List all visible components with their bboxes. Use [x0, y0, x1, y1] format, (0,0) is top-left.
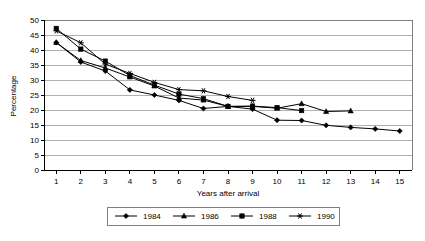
y-tick-label: 40: [30, 46, 39, 55]
data-point-square: [299, 108, 303, 112]
data-point-square: [250, 104, 254, 108]
data-point-square: [79, 47, 83, 51]
x-tick-label: 11: [297, 177, 306, 186]
data-point-square: [201, 96, 205, 100]
line-chart: 05101520253035404550 1234567891011121314…: [0, 0, 425, 241]
legend-label: 1990: [317, 212, 335, 221]
data-point-square: [226, 104, 230, 108]
chart-legend: 1984198619881990: [107, 207, 339, 225]
chart-container: 05101520253035404550 1234567891011121314…: [0, 0, 425, 241]
data-point-square: [152, 83, 156, 87]
x-tick-label: 4: [128, 177, 133, 186]
x-tick-label: 5: [152, 177, 157, 186]
x-tick-label: 3: [103, 177, 108, 186]
x-tick-label: 7: [201, 177, 206, 186]
y-tick-label: 10: [30, 136, 39, 145]
legend-label: 1986: [201, 212, 219, 221]
x-tick-label: 15: [395, 177, 404, 186]
y-tick-label: 25: [30, 91, 39, 100]
x-tick-label: 6: [177, 177, 182, 186]
y-axis-title: Percentage: [9, 75, 18, 116]
legend-label: 1988: [259, 212, 277, 221]
data-point-square: [177, 92, 181, 96]
y-tick-label: 30: [30, 76, 39, 85]
chart-background: [0, 0, 425, 241]
y-tick-label: 5: [35, 151, 40, 160]
x-tick-label: 12: [322, 177, 331, 186]
y-tick-label: 20: [30, 106, 39, 115]
data-point-square: [275, 105, 279, 109]
y-tick-label: 45: [30, 31, 39, 40]
x-tick-label: 10: [273, 177, 282, 186]
x-axis-title: Years after arrival: [197, 189, 260, 198]
y-tick-label: 0: [35, 166, 40, 175]
y-tick-label: 35: [30, 61, 39, 70]
x-tick-label: 8: [226, 177, 231, 186]
y-tick-label: 50: [30, 16, 39, 25]
x-tick-label: 1: [54, 177, 59, 186]
x-tick-label: 2: [79, 177, 84, 186]
y-tick-label: 15: [30, 121, 39, 130]
x-tick-label: 9: [250, 177, 255, 186]
x-tick-label: 14: [371, 177, 380, 186]
x-tick-label: 13: [346, 177, 355, 186]
data-point-square: [240, 214, 244, 218]
legend-label: 1984: [143, 212, 161, 221]
